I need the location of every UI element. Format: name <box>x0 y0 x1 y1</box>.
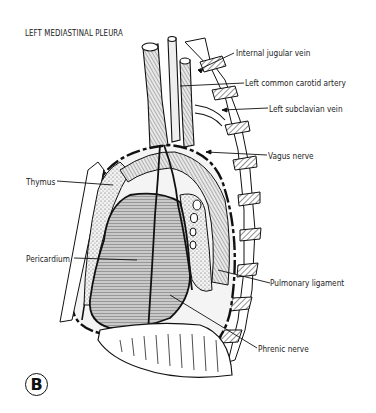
figure-title: LEFT MEDIASTINAL PLEURA <box>25 29 123 38</box>
panel-letter-badge: B <box>25 373 48 396</box>
mediastinum-illustration <box>0 0 376 413</box>
diaphragm-shape <box>98 323 232 377</box>
label-thymus: Thymus <box>26 177 55 187</box>
label-pericardium: Pericardium <box>26 254 70 264</box>
label-phrenic-nerve: Phrenic nerve <box>258 344 309 354</box>
anatomy-figure: LEFT MEDIASTINAL PLEURA Internal jugular… <box>0 0 376 413</box>
label-left-subclavian-vein: Left subclavian vein <box>269 104 343 114</box>
label-pulmonary-ligament: Pulmonary ligament <box>270 278 344 288</box>
label-internal-jugular-vein: Internal jugular vein <box>236 48 310 58</box>
label-vagus-nerve: Vagus nerve <box>268 151 314 161</box>
label-left-common-carotid-artery: Left common carotid artery <box>245 78 346 88</box>
